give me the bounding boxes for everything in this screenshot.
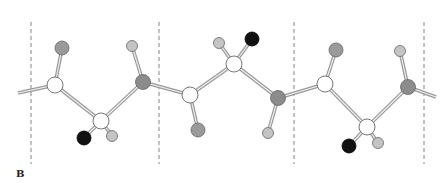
hydrogen-atom: [107, 131, 118, 142]
carbon-atom: [317, 76, 333, 92]
hydrogen-atom: [263, 128, 274, 139]
bond-highlight: [101, 82, 143, 121]
carbon-atom: [47, 77, 63, 93]
hydrogen-atom: [373, 138, 384, 149]
side_chain-atom: [342, 139, 356, 153]
nitrogen-atom: [136, 75, 151, 90]
hydrogen-atom: [127, 41, 138, 52]
carbon-atom: [182, 87, 198, 103]
oxygen-atom: [329, 43, 343, 57]
residue-dividers: [31, 22, 424, 164]
hydrogen-atom: [395, 46, 406, 57]
bond-highlight: [325, 84, 367, 127]
side_chain-atom: [77, 131, 91, 145]
nitrogen-atom: [401, 80, 416, 95]
bond-highlight: [55, 85, 101, 121]
side_chain-atom: [245, 32, 259, 46]
oxygen-atom: [55, 41, 69, 55]
carbon-atom: [93, 113, 109, 129]
nitrogen-atom: [271, 91, 286, 106]
carbon-atom: [359, 119, 375, 135]
polypeptide-diagram: [0, 0, 442, 183]
panel-label: B: [16, 168, 24, 179]
oxygen-atom: [191, 123, 205, 137]
hydrogen-atom: [214, 38, 225, 49]
bond-highlight: [367, 87, 408, 127]
carbon-atom: [226, 56, 242, 72]
